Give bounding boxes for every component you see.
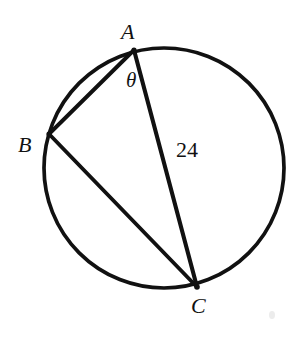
- point-label-b: B: [18, 134, 31, 156]
- vertex-point-b: [46, 131, 51, 136]
- geometry-canvas: [0, 0, 301, 338]
- vertex-point-c: [194, 284, 200, 290]
- scan-artifact: [269, 311, 275, 319]
- segment-ab: [49, 50, 134, 134]
- angle-label-theta: θ: [126, 70, 136, 91]
- length-label-ac: 24: [176, 139, 198, 161]
- point-label-a: A: [121, 21, 134, 43]
- geometry-figure: A B C θ 24: [0, 0, 301, 338]
- segment-ac: [134, 50, 197, 287]
- point-label-c: C: [191, 295, 206, 317]
- vertex-point-a: [131, 47, 136, 52]
